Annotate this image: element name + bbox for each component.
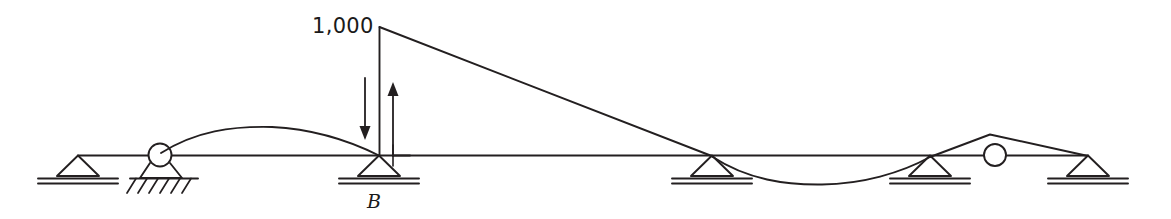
support-hinge-hatching	[127, 179, 191, 194]
support-right-inner-triangle	[909, 156, 951, 177]
hinge-left-circle	[149, 144, 172, 167]
influence-line-descending-segment	[380, 27, 714, 157]
support-left-roller-triangle	[57, 156, 99, 177]
load-value-label: 1,000	[312, 14, 374, 38]
support-right-end-triangle	[1067, 156, 1109, 177]
load-arrow-down	[360, 78, 371, 140]
hinge-right-circle	[984, 144, 1006, 166]
influence-line-negative-dip	[712, 157, 930, 185]
influence-line-left-arch	[161, 127, 379, 156]
point-b-label: B	[367, 190, 381, 212]
influence-line-right-peak	[930, 135, 1088, 158]
influence-line-drawing	[0, 0, 1171, 219]
influence-line-figure: 1,000 B	[0, 0, 1171, 219]
